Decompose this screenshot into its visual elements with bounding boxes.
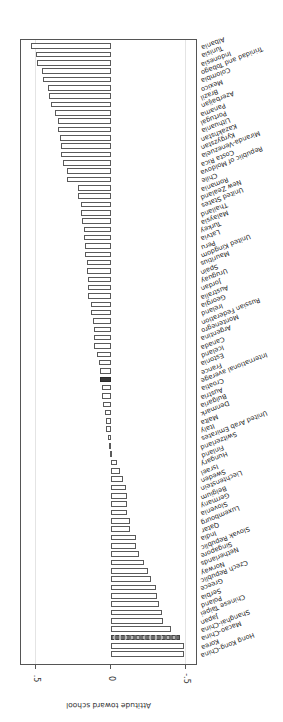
- bar: [44, 77, 112, 83]
- bar: [32, 43, 112, 49]
- bar: [59, 127, 112, 133]
- bar: [111, 543, 137, 549]
- bar: [99, 360, 111, 366]
- bar: [108, 435, 111, 441]
- x-tick: [35, 664, 36, 669]
- bar: [105, 410, 111, 416]
- bar: [60, 135, 111, 141]
- gridline: [35, 40, 36, 664]
- bar: [111, 610, 162, 616]
- bar: [84, 235, 111, 241]
- bar: [104, 402, 112, 408]
- bar: [56, 110, 112, 116]
- bar: [78, 185, 111, 191]
- bar: [81, 210, 111, 216]
- bar: [111, 476, 123, 482]
- bar: [111, 510, 128, 516]
- bar: [111, 626, 171, 632]
- bar: [87, 260, 111, 266]
- bar: [109, 443, 111, 449]
- x-tick-label: .5: [32, 675, 41, 683]
- bar: [68, 168, 112, 174]
- bar: [107, 427, 112, 433]
- bar: [111, 501, 128, 507]
- bar: [38, 60, 112, 66]
- bar: [101, 368, 112, 374]
- bar: [111, 585, 156, 591]
- bar: [111, 526, 131, 532]
- bar: [68, 177, 112, 183]
- bar: [95, 335, 112, 341]
- x-tick: [185, 664, 186, 669]
- bar: [62, 143, 112, 149]
- bar: [50, 93, 112, 99]
- bar: [111, 651, 185, 657]
- bar: [111, 493, 128, 499]
- bar: [63, 160, 111, 166]
- bar: [111, 460, 117, 466]
- bar: [111, 635, 180, 641]
- chart-stage: Attitude toward school -.50.5 Hong Kong-…: [0, 0, 283, 722]
- bar: [36, 52, 111, 58]
- x-tick-label: 0: [107, 676, 116, 681]
- bar: [111, 618, 164, 624]
- bar: [111, 468, 120, 474]
- bar: [95, 327, 112, 333]
- bar: [62, 152, 112, 158]
- bar: [101, 377, 112, 383]
- bar: [81, 202, 111, 208]
- bar: [111, 593, 158, 599]
- bar: [78, 193, 111, 199]
- bar: [92, 302, 112, 308]
- bar: [84, 227, 111, 233]
- bar: [42, 68, 111, 74]
- bar: [98, 352, 112, 358]
- bar: [92, 310, 112, 316]
- bar: [89, 285, 112, 291]
- bar: [83, 218, 112, 224]
- bar: [111, 568, 149, 574]
- bar: [111, 518, 131, 524]
- bar: [111, 560, 144, 566]
- bar: [93, 318, 111, 324]
- bar: [51, 102, 111, 108]
- bar: [111, 485, 126, 491]
- gridline: [185, 40, 186, 664]
- bar: [102, 393, 111, 399]
- bar: [59, 118, 112, 124]
- bar: [86, 252, 112, 258]
- bar: [111, 601, 159, 607]
- bar: [111, 551, 140, 557]
- x-tick: [110, 664, 111, 669]
- bar: [48, 85, 111, 91]
- plot-area: -.50.5: [20, 39, 197, 665]
- bar: [89, 293, 112, 299]
- bar: [111, 535, 137, 541]
- bar: [107, 418, 112, 424]
- x-tick-label: -.5: [182, 673, 191, 684]
- bar: [95, 343, 112, 349]
- bar: [86, 243, 112, 249]
- x-axis-title: Attitude toward school: [20, 701, 197, 710]
- bar: [102, 385, 111, 391]
- bar: [111, 452, 113, 458]
- bar: [87, 268, 111, 274]
- bar: [89, 277, 112, 283]
- bar: [111, 576, 152, 582]
- bar: [111, 643, 185, 649]
